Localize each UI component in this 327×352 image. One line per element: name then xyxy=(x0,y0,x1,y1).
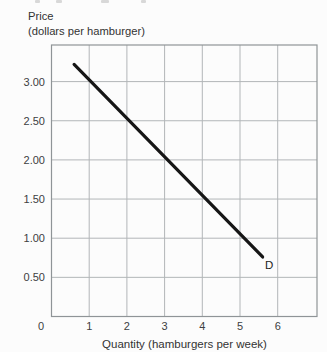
demand-curve xyxy=(74,64,263,257)
y-tick-label: 1.50 xyxy=(24,193,45,205)
demand-line xyxy=(74,64,263,257)
y-tick-label: 2.50 xyxy=(24,115,45,127)
plot-border xyxy=(52,45,318,317)
x-tick-label: 5 xyxy=(237,320,243,332)
grid-lines xyxy=(52,45,318,317)
y-tick-label: 3.00 xyxy=(24,76,45,88)
y-tick-labels: 3.002.502.001.501.000.50 xyxy=(24,76,45,284)
demand-chart-plot: 3.002.502.001.501.000.50 0123456 D Quant… xyxy=(0,0,327,352)
x-tick-label: 0 xyxy=(38,320,44,332)
x-tick-label: 6 xyxy=(275,320,281,332)
x-axis-label: Quantity (hamburgers per week) xyxy=(102,338,267,350)
y-tick-label: 1.00 xyxy=(24,232,45,244)
x-tick-label: 3 xyxy=(162,320,168,332)
x-tick-label: 2 xyxy=(124,320,130,332)
x-tick-labels: 0123456 xyxy=(38,320,281,332)
demand-curve-figure: Price (dollars per hamburger) 3.002.502.… xyxy=(0,0,327,352)
x-tick-label: 4 xyxy=(199,320,205,332)
demand-curve-label: D xyxy=(265,259,273,271)
y-tick-label: 0.50 xyxy=(24,271,45,283)
y-tick-label: 2.00 xyxy=(24,154,45,166)
x-tick-label: 1 xyxy=(86,320,92,332)
